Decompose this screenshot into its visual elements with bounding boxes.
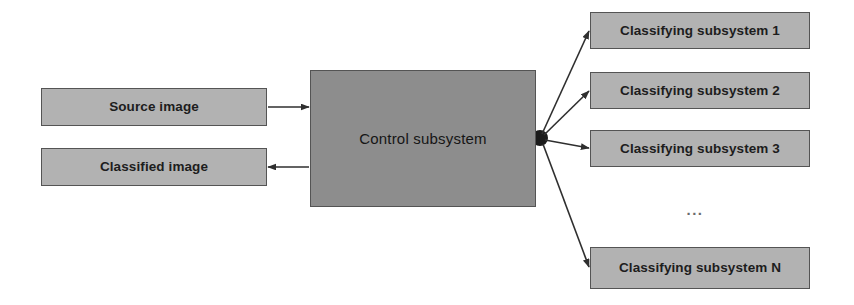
node-classifying-subsystem-3[interactable]: Classifying subsystem 3 (590, 130, 810, 167)
node-classified-image[interactable]: Classified image (41, 148, 267, 186)
node-control-subsystem[interactable]: Control subsystem (310, 70, 536, 207)
node-classifying-subsystem-2[interactable]: Classifying subsystem 2 (590, 72, 810, 109)
node-classifying-subsystem-3-label: Classifying subsystem 3 (620, 141, 780, 157)
node-source-image[interactable]: Source image (41, 88, 267, 126)
edge-control-to-classifying-3 (545, 140, 589, 148)
edge-control-to-classifying-1 (542, 31, 589, 134)
diagram-canvas: Source image Classified image Control su… (0, 0, 854, 305)
node-classified-image-label: Classified image (100, 159, 208, 175)
node-classifying-subsystem-2-label: Classifying subsystem 2 (620, 83, 780, 99)
edge-control-to-classifying-n (543, 144, 589, 267)
node-source-image-label: Source image (109, 99, 199, 115)
ellipsis-marker-label: ... (686, 201, 703, 218)
ellipsis-marker: ... (668, 198, 722, 220)
edge-control-to-classifying-2 (544, 91, 589, 135)
node-control-subsystem-label: Control subsystem (359, 130, 487, 147)
node-classifying-subsystem-n-label: Classifying subsystem N (619, 260, 781, 276)
node-classifying-subsystem-1-label: Classifying subsystem 1 (620, 23, 780, 39)
node-classifying-subsystem-n[interactable]: Classifying subsystem N (590, 247, 810, 289)
node-classifying-subsystem-1[interactable]: Classifying subsystem 1 (590, 12, 810, 49)
